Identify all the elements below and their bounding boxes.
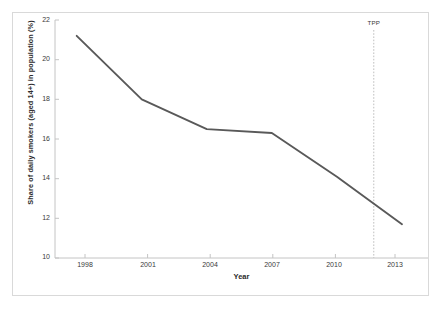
x-axis-ticks (85, 254, 395, 258)
chart-plot-svg (0, 0, 443, 312)
y-axis-ticks (55, 20, 59, 258)
data-series-line (77, 36, 402, 224)
chart-figure: Share of daily smokers (aged 14+) in pop… (0, 0, 443, 312)
